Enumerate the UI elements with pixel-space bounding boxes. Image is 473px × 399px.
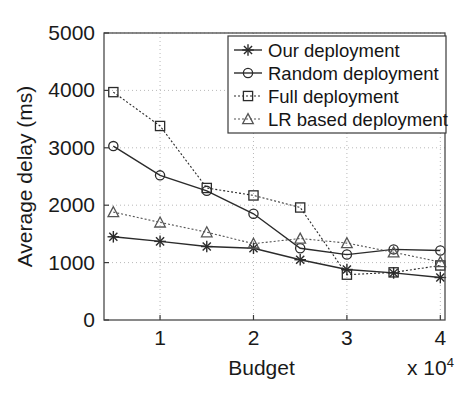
- x-tick-label: 3: [341, 326, 353, 349]
- x-axis-title: Budget: [228, 356, 295, 379]
- triangle-marker: [201, 227, 212, 237]
- x-axis-multiplier: x 104: [407, 355, 454, 379]
- y-tick-label: 1000: [48, 251, 95, 274]
- x-tick-label: 2: [248, 326, 260, 349]
- triangle-marker: [108, 207, 119, 217]
- star-marker: [108, 231, 120, 243]
- square-marker: [249, 191, 258, 200]
- star-marker: [294, 254, 306, 266]
- y-tick-label: 5000: [48, 21, 95, 44]
- x-axis-exponent: 4: [447, 355, 454, 370]
- square-marker: [296, 203, 305, 212]
- star-marker: [201, 241, 213, 253]
- chart-legend: Our deploymentRandom deploymentFull depl…: [228, 36, 448, 133]
- x-tick-label: 1: [154, 326, 166, 349]
- y-tick-label: 2000: [48, 193, 95, 216]
- chart-figure: 0100020003000400050001234Average delay (…: [0, 0, 473, 399]
- triangle-marker: [295, 233, 306, 243]
- legend-label: Full deployment: [268, 86, 399, 107]
- legend-label: Our deployment: [268, 40, 400, 61]
- y-tick-label: 3000: [48, 136, 95, 159]
- legend-label: Random deployment: [268, 63, 439, 84]
- line-chart: 0100020003000400050001234Average delay (…: [0, 0, 473, 399]
- legend-label: LR based deployment: [268, 109, 448, 130]
- star-marker: [154, 236, 166, 248]
- series-lr-based-deployment: [108, 207, 446, 267]
- y-axis-title: Average delay (ms): [13, 86, 36, 268]
- y-tick-label: 4000: [48, 78, 95, 101]
- y-tick-label: 0: [83, 308, 95, 331]
- x-tick-label: 4: [434, 326, 446, 349]
- star-marker: [242, 44, 254, 56]
